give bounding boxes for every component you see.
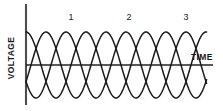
voltage-axis-label: VOLTAGE (7, 39, 16, 79)
phase-label-1: 1 (64, 13, 78, 22)
time-axis-label: TIME (191, 53, 213, 62)
waveform-figure: VOLTAGE TIME 1 2 3 (0, 0, 223, 111)
phase-label-2: 2 (122, 13, 136, 22)
phase-label-3: 3 (179, 13, 193, 22)
